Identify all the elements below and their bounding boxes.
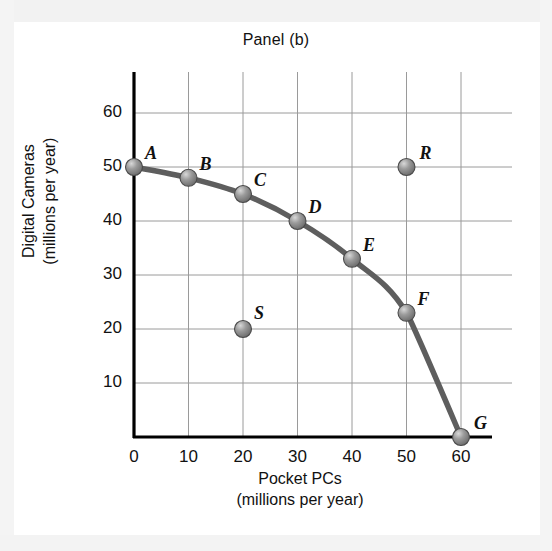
data-point-d (289, 213, 306, 230)
marker-sphere (398, 159, 415, 176)
data-point-e (344, 250, 361, 267)
y-tick-label: 40 (82, 210, 122, 230)
x-tick-label: 40 (332, 447, 372, 467)
point-label-e: E (363, 235, 375, 256)
x-tick-label: 20 (223, 447, 263, 467)
x-axis-title: Pocket PCs (millions per year) (130, 468, 470, 510)
point-label-a: A (145, 143, 157, 164)
marker-sphere (289, 213, 306, 230)
point-label-f: F (418, 289, 430, 310)
x-tick-label: 50 (387, 447, 427, 467)
data-point-a (126, 159, 143, 176)
chart-page: Panel (b) 102030405060 0102030405060 ABC… (0, 0, 552, 551)
marker-sphere (235, 186, 252, 203)
y-tick-label: 10 (82, 372, 122, 392)
point-label-s: S (254, 303, 264, 324)
x-tick-label: 60 (441, 447, 481, 467)
y-axis-title-line2: (millions per year) (39, 86, 60, 316)
x-tick-label: 30 (278, 447, 318, 467)
y-axis-title: Digital Cameras (millions per year) (18, 86, 60, 316)
data-point-s (235, 321, 252, 338)
point-label-c: C (254, 170, 266, 191)
data-point-b (180, 169, 197, 186)
x-tick-label: 10 (169, 447, 209, 467)
x-axis-title-line1: Pocket PCs (130, 468, 470, 489)
marker-sphere (453, 429, 470, 446)
marker-sphere (235, 321, 252, 338)
point-label-g: G (474, 413, 487, 434)
point-label-d: D (309, 197, 322, 218)
marker-sphere (398, 304, 415, 321)
y-tick-label: 50 (82, 156, 122, 176)
data-point-c (235, 186, 252, 203)
x-axis-title-line2: (millions per year) (130, 489, 470, 510)
y-tick-label: 20 (82, 318, 122, 338)
y-axis-title-line1: Digital Cameras (18, 86, 39, 316)
y-tick-label: 30 (82, 264, 122, 284)
point-label-r: R (420, 143, 432, 164)
data-point-r (398, 159, 415, 176)
marker-sphere (180, 169, 197, 186)
point-label-b: B (200, 154, 212, 175)
x-tick-label: 0 (114, 447, 154, 467)
y-tick-label: 60 (82, 102, 122, 122)
data-point-f (398, 304, 415, 321)
data-point-g (453, 429, 470, 446)
marker-sphere (344, 250, 361, 267)
marker-sphere (126, 159, 143, 176)
gridlines (134, 72, 512, 437)
